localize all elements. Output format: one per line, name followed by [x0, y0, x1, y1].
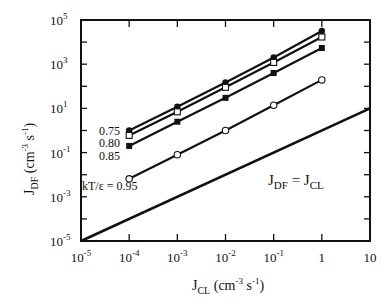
- label-series-085: 0.85: [99, 149, 120, 163]
- y-tick-label: 10-5: [50, 232, 71, 249]
- data-point-marker: [319, 77, 325, 83]
- data-point-marker: [270, 102, 276, 108]
- y-tick-label: 10-1: [50, 144, 71, 161]
- x-tick-label: 10-2: [215, 248, 236, 265]
- x-tick-label: 10: [364, 250, 377, 265]
- data-point-marker: [319, 34, 325, 40]
- x-tick-labels: 10-510-410-310-210-1110: [71, 248, 377, 265]
- data-point-marker: [174, 152, 180, 158]
- data-point-marker: [319, 45, 325, 51]
- data-point-marker: [126, 143, 132, 149]
- x-tick-label: 10-5: [71, 248, 92, 265]
- data-point-marker: [271, 59, 277, 65]
- data-point-marker: [222, 127, 228, 133]
- label-series-080: 0.80: [99, 136, 120, 150]
- x-axis-title: JCL (cm-3 s-1): [192, 276, 264, 296]
- x-tick-label: 10-4: [119, 248, 140, 265]
- data-point-marker: [126, 132, 132, 138]
- y-tick-labels: 10510310110-110-310-5: [50, 11, 71, 249]
- x-tick-label: 10-3: [167, 248, 188, 265]
- y-tick-label: 103: [50, 55, 68, 72]
- data-point-marker: [319, 28, 325, 34]
- y-tick-label: 101: [50, 99, 68, 116]
- label-series-095: kT/ε = 0.95: [82, 179, 137, 193]
- y-tick-label: 10-3: [50, 188, 71, 205]
- data-point-marker: [174, 119, 180, 125]
- data-point-marker: [223, 95, 229, 101]
- x-tick-label: 1: [319, 250, 326, 265]
- data-point-marker: [223, 84, 229, 90]
- chart: 10-510-410-310-210-1110 10510310110-110-…: [0, 0, 388, 305]
- y-tick-label: 105: [50, 11, 68, 28]
- data-point-marker: [271, 70, 277, 76]
- y-axis-title: JDF (cm-3 s-1): [20, 123, 40, 195]
- data-series: [81, 28, 370, 241]
- data-point-marker: [174, 109, 180, 115]
- reference-line-label: JDF = JCL: [268, 172, 324, 191]
- x-tick-label: 10-1: [263, 248, 284, 265]
